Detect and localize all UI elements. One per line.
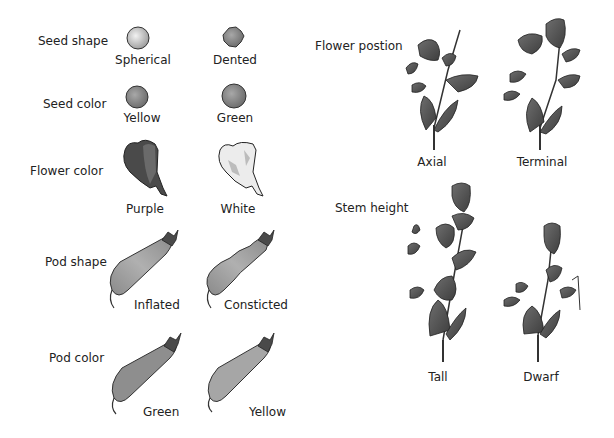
trait-label-pod-shape: Pod shape [45,255,107,269]
variant-label-green-pod: Green [143,405,179,419]
variant-label-axial: Axial [417,155,446,169]
variant-label-spherical: Spherical [115,53,171,67]
variant-label-inflated: Inflated [134,298,180,312]
variant-label-yellow-seed: Yellow [124,111,161,125]
trait-label-flower-position: Flower postion [315,39,403,53]
axial-plant-icon [406,30,478,150]
dwarf-plant-icon [504,223,580,362]
variant-label-green-seed: Green [217,111,253,125]
terminal-plant-icon [504,19,580,150]
white-flower-icon [219,142,263,196]
variant-label-yellow-pod: Yellow [249,405,286,419]
green-seed-icon [222,84,246,108]
trait-label-pod-color: Pod color [49,351,104,365]
variant-label-tall: Tall [428,370,447,384]
dented-seed-icon [223,27,244,47]
tall-plant-icon [408,183,476,362]
yellow-pod-icon [208,333,274,412]
trait-label-seed-color: Seed color [43,97,106,111]
green-pod-icon [112,333,181,414]
trait-label-flower-color: Flower color [30,164,103,178]
constricted-pod-icon [207,230,274,308]
purple-flower-icon [124,140,167,196]
variant-label-dented: Dented [213,53,257,67]
variant-label-terminal: Terminal [517,155,568,169]
variant-label-purple: Purple [126,202,164,216]
trait-label-stem-height: Stem height [335,201,408,215]
yellow-seed-icon [126,86,148,108]
trait-label-seed-shape: Seed shape [38,34,108,48]
variant-label-constricted: Consticted [224,298,288,312]
spherical-seed-icon [127,27,149,49]
variant-label-dwarf: Dwarf [523,370,559,384]
inflated-pod-icon [110,230,178,308]
variant-label-white: White [221,202,256,216]
illustrations [0,0,614,438]
